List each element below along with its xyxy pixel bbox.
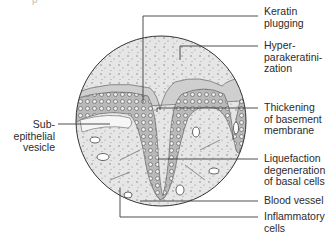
label-subepithelial-vesicle: Sub- epithelial vesicle	[14, 119, 55, 154]
label-thickening-basement-membrane: Thickening of basement membrane	[264, 102, 322, 137]
magnified-section	[70, 30, 260, 220]
blood-vessel-shape	[90, 137, 100, 143]
label-blood-vessel: Blood vessel	[264, 195, 324, 207]
label-hyperparakeratinization: Hyper- parakeratini- zation	[264, 40, 322, 75]
label-inflammatory-cells: Inflammatory cells	[264, 211, 325, 234]
label-liquefaction-degeneration: Liquefaction degeneration of basal cells	[264, 153, 325, 188]
label-keratin-plugging: Keratin plugging	[264, 6, 304, 29]
